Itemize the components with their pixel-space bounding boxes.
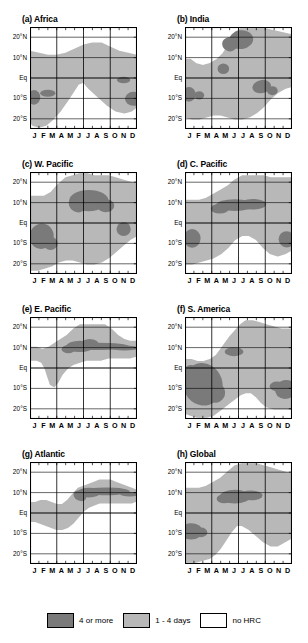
y-tick-label: 10°N	[13, 54, 27, 60]
x-tick-label: D	[128, 276, 137, 288]
panel-b: (b) India20°N10°NEq10°S20°SJFMAMJJASOND	[155, 14, 303, 154]
x-tick-label: J	[84, 276, 93, 288]
panel-d: (d) C. Pacific20°N10°NEq10°S20°SJFMAMJJA…	[155, 159, 303, 299]
y-tick-label: 20°S	[13, 261, 27, 267]
y-axis-labels-a: 20°N10°NEq10°S20°S	[0, 27, 29, 129]
y-axis-labels-h: 20°N10°NEq10°S20°S	[155, 462, 184, 564]
y-tick-label: Eq	[174, 510, 182, 516]
x-tick-label: D	[283, 131, 292, 143]
y-axis-labels-e: 20°N10°NEq10°S20°S	[0, 317, 29, 419]
x-tick-label: A	[212, 131, 221, 143]
y-axis-labels-f: 20°N10°NEq10°S20°S	[155, 317, 184, 419]
legend-item-4-or-more: 4 or more	[47, 613, 113, 628]
x-tick-label: A	[92, 131, 101, 143]
y-tick-label: 20°S	[168, 551, 182, 557]
x-axis-labels-g: JFMAMJJASOND	[30, 566, 137, 578]
x-tick-label: J	[185, 566, 194, 578]
x-tick-label: M	[48, 276, 57, 288]
y-tick-label: 10°S	[168, 240, 182, 246]
contour-region-dark	[211, 204, 229, 214]
y-tick-label: 20°S	[13, 551, 27, 557]
y-tick-label: Eq	[19, 510, 27, 516]
x-tick-label: M	[221, 421, 230, 433]
panel-title-h: (h) Global	[177, 449, 216, 459]
x-tick-label: J	[230, 276, 239, 288]
x-tick-label: J	[75, 566, 84, 578]
plot-area-e	[30, 317, 137, 419]
x-tick-label: D	[283, 566, 292, 578]
y-tick-label: Eq	[174, 220, 182, 226]
x-tick-label: M	[66, 276, 75, 288]
panel-g: (g) Atlantic20°N10°NEq10°S20°SJFMAMJJASO…	[0, 449, 148, 589]
x-tick-label: M	[66, 131, 75, 143]
panel-a: (a) Africa20°N10°NEq10°S20°SJFMAMJJASOND	[0, 14, 148, 154]
x-tick-label: F	[39, 131, 48, 143]
x-tick-label: A	[57, 421, 66, 433]
panel-title-a: (a) Africa	[22, 14, 58, 24]
legend-swatch-1-4-days	[123, 613, 150, 628]
x-tick-label: A	[57, 566, 66, 578]
x-tick-label: A	[57, 131, 66, 143]
y-tick-label: 20°N	[13, 34, 27, 40]
x-tick-label: S	[101, 421, 110, 433]
x-axis-labels-h: JFMAMJJASOND	[185, 566, 292, 578]
plot-area-g	[30, 462, 137, 564]
y-tick-label: 10°S	[168, 530, 182, 536]
y-tick-label: Eq	[19, 75, 27, 81]
y-tick-label: 20°S	[168, 261, 182, 267]
x-tick-label: M	[66, 421, 75, 433]
x-tick-label: M	[203, 276, 212, 288]
x-tick-label: J	[30, 421, 39, 433]
y-tick-label: 20°S	[13, 406, 27, 412]
x-tick-label: N	[119, 131, 128, 143]
y-tick-label: Eq	[19, 220, 27, 226]
y-tick-label: 10°S	[13, 240, 27, 246]
contour-region-dark	[97, 199, 114, 212]
x-tick-label: D	[283, 276, 292, 288]
x-tick-label: M	[203, 131, 212, 143]
x-tick-label: D	[128, 566, 137, 578]
x-tick-label: A	[92, 421, 101, 433]
y-tick-label: 10°S	[13, 385, 27, 391]
x-tick-label: M	[66, 566, 75, 578]
y-tick-label: 20°S	[168, 116, 182, 122]
x-tick-label: S	[256, 131, 265, 143]
y-tick-label: 20°N	[13, 324, 27, 330]
panel-c: (c) W. Pacific20°N10°NEq10°S20°SJFMAMJJA…	[0, 159, 148, 299]
x-tick-label: A	[57, 276, 66, 288]
x-tick-label: O	[265, 421, 274, 433]
y-tick-label: 20°S	[13, 116, 27, 122]
legend-label-4-or-more: 4 or more	[79, 616, 113, 625]
x-tick-label: J	[230, 566, 239, 578]
x-tick-label: A	[92, 566, 101, 578]
y-tick-label: 10°S	[168, 95, 182, 101]
contour-region-dark	[195, 527, 207, 537]
figure-hrc-seasonal-latitude: (a) Africa20°N10°NEq10°S20°SJFMAMJJASOND…	[0, 0, 308, 643]
y-tick-label: 10°S	[13, 95, 27, 101]
legend-label-no-hrc: no HRC	[232, 616, 260, 625]
x-tick-label: D	[128, 421, 137, 433]
y-tick-label: 20°N	[168, 34, 182, 40]
contour-plot-h	[185, 462, 292, 564]
x-tick-label: O	[265, 131, 274, 143]
plot-area-b	[185, 27, 292, 129]
x-tick-label: A	[247, 131, 256, 143]
legend-swatch-no-hrc	[200, 613, 227, 628]
x-tick-label: S	[256, 566, 265, 578]
x-tick-label: A	[212, 421, 221, 433]
x-axis-labels-f: JFMAMJJASOND	[185, 421, 292, 433]
x-tick-label: M	[221, 276, 230, 288]
x-tick-label: J	[30, 276, 39, 288]
y-axis-labels-c: 20°N10°NEq10°S20°S	[0, 172, 29, 274]
x-axis-labels-a: JFMAMJJASOND	[30, 131, 137, 143]
plot-area-c	[30, 172, 137, 274]
x-tick-label: J	[230, 131, 239, 143]
x-tick-label: J	[239, 421, 248, 433]
panel-title-c: (c) W. Pacific	[22, 159, 73, 169]
y-tick-label: 10°N	[168, 54, 182, 60]
x-tick-label: A	[92, 276, 101, 288]
x-tick-label: F	[39, 566, 48, 578]
x-tick-label: F	[194, 421, 203, 433]
y-tick-label: 10°N	[13, 489, 27, 495]
x-tick-label: J	[30, 566, 39, 578]
